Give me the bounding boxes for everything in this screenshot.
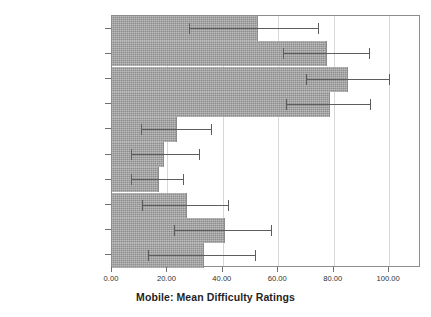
x-tick (166, 267, 167, 272)
bar-row (112, 67, 421, 92)
category-tick (105, 229, 111, 230)
error-bar-cap-high (228, 200, 229, 211)
bar-row (112, 243, 421, 268)
error-bar-line (306, 79, 389, 80)
chart-container: MFrustrationRatingMDiffMentalDemandOvera… (0, 0, 431, 317)
x-tick (277, 267, 278, 272)
error-bar-line (286, 104, 370, 105)
x-tick (222, 267, 223, 272)
bar-row (112, 218, 421, 243)
x-tick (111, 267, 112, 272)
bar-row (112, 193, 421, 218)
error-bar-cap-high (211, 124, 212, 135)
error-bar-line (148, 255, 255, 256)
x-tick-label: 20.00 (146, 274, 186, 283)
error-bar-line (189, 28, 318, 29)
category-tick (105, 204, 111, 205)
x-tick-label: 0.00 (91, 274, 131, 283)
error-bar-line (131, 154, 199, 155)
category-tick (105, 128, 111, 129)
error-bar-cap-high (199, 149, 200, 160)
x-tick-label: 60.00 (257, 274, 297, 283)
category-tick (105, 154, 111, 155)
bar-row (112, 117, 421, 142)
error-bar-cap-high (369, 48, 370, 59)
error-bar-cap-low (286, 99, 287, 110)
bar-row (112, 92, 421, 117)
error-bar-line (174, 230, 271, 231)
error-bar-cap-low (306, 74, 307, 85)
error-bar-cap-high (271, 225, 272, 236)
x-tick-label: 40.00 (202, 274, 242, 283)
plot-area (111, 15, 420, 267)
error-bar-line (131, 179, 183, 180)
error-bar-cap-low (148, 250, 149, 261)
bar-row (112, 16, 421, 41)
category-tick (105, 78, 111, 79)
category-tick (105, 179, 111, 180)
x-tick-label: 80.00 (313, 274, 353, 283)
bar-row (112, 142, 421, 167)
error-bar-line (142, 205, 228, 206)
error-bar-cap-high (389, 74, 390, 85)
error-bar-cap-low (131, 149, 132, 160)
error-bar-cap-low (131, 174, 132, 185)
error-bar-cap-high (255, 250, 256, 261)
error-bar-cap-low (189, 23, 190, 34)
category-tick (105, 254, 111, 255)
category-tick (105, 53, 111, 54)
error-bar-cap-low (283, 48, 284, 59)
category-tick (105, 103, 111, 104)
error-bar-cap-low (174, 225, 175, 236)
error-bar-line (283, 53, 369, 54)
error-bar-cap-low (141, 124, 142, 135)
axis-title: Mobile: Mean Difficulty Ratings (0, 291, 431, 303)
x-tick (333, 267, 334, 272)
error-bar-cap-high (318, 23, 319, 34)
bar-row (112, 41, 421, 66)
error-bar-cap-high (370, 99, 371, 110)
bar-row (112, 167, 421, 192)
category-tick (105, 28, 111, 29)
x-tick (388, 267, 389, 272)
error-bar-cap-high (183, 174, 184, 185)
error-bar-cap-low (142, 200, 143, 211)
x-tick-label: 100.00 (368, 274, 408, 283)
error-bar-line (141, 129, 211, 130)
